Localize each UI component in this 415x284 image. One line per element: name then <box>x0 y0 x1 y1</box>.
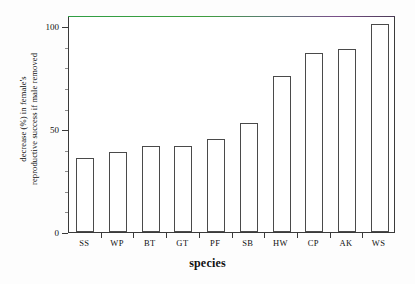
y-axis-title-line-1: decrease (%) in female's <box>18 76 29 161</box>
y-axis-tick-label: 50 <box>50 125 59 135</box>
bar-chart-figure: decrease (%) in female's reproductive su… <box>0 0 415 284</box>
y-axis-minor-tick <box>65 48 69 49</box>
bar-sb <box>240 123 258 232</box>
x-axis-category-label: SB <box>242 238 253 248</box>
x-axis-category-label: WP <box>110 238 124 248</box>
y-axis-minor-tick <box>65 110 69 111</box>
x-axis-category-label: PF <box>210 238 220 248</box>
x-axis-tick <box>166 233 167 238</box>
y-axis-minor-tick <box>65 68 69 69</box>
x-axis-category-label: GT <box>176 238 188 248</box>
x-axis-tick <box>264 233 265 238</box>
bar-hw <box>273 76 291 232</box>
x-axis-tick <box>199 233 200 238</box>
x-axis-tick <box>330 233 331 238</box>
x-axis-tick <box>133 233 134 238</box>
y-axis-minor-tick <box>65 89 69 90</box>
x-axis-category-label: HW <box>273 238 288 248</box>
x-axis-tick <box>101 233 102 238</box>
y-axis-tick: 50 <box>62 130 68 131</box>
y-axis-title-line-2: reproductive success if male removed <box>29 53 40 185</box>
y-axis-tick-label: 100 <box>46 22 60 32</box>
y-axis-minor-tick <box>65 151 69 152</box>
x-axis-category-label: BT <box>144 238 156 248</box>
y-axis-tick: 0 <box>62 233 68 234</box>
bar-wp <box>109 152 127 232</box>
x-axis-tick <box>232 233 233 238</box>
plot-area <box>68 17 395 233</box>
bar-gt <box>174 146 192 232</box>
x-axis-title: species <box>0 256 415 271</box>
y-axis-tick-label: 0 <box>55 228 60 238</box>
x-axis-category-label: SS <box>79 238 89 248</box>
y-axis-tick: 100 <box>62 27 68 28</box>
x-axis-tick <box>362 233 363 238</box>
bar-ws <box>371 24 389 232</box>
y-axis-minor-tick <box>65 192 69 193</box>
bar-ak <box>338 49 356 232</box>
bar-pf <box>207 139 225 232</box>
bar-cp <box>305 53 323 232</box>
bar-ss <box>76 158 94 232</box>
y-axis-minor-tick <box>65 171 69 172</box>
x-axis-category-label: WS <box>372 238 386 248</box>
y-axis-minor-tick <box>65 212 69 213</box>
bar-bt <box>142 146 160 232</box>
y-axis-title: decrease (%) in female's reproductive su… <box>16 24 42 214</box>
x-axis-category-label: CP <box>308 238 319 248</box>
x-axis-tick <box>297 233 298 238</box>
x-axis-category-label: AK <box>339 238 352 248</box>
